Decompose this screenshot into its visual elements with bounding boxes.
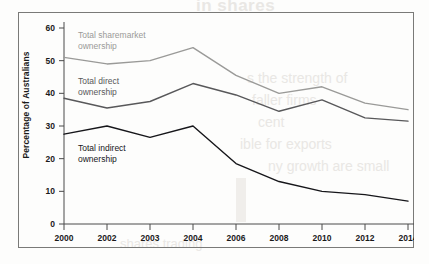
svg-text:2012: 2012 xyxy=(356,233,375,243)
line-chart-plot: 0102030405060 20002002200320042006200820… xyxy=(18,12,414,248)
svg-text:40: 40 xyxy=(46,88,56,98)
svg-text:2000: 2000 xyxy=(55,233,74,243)
series-label-line1: Total direct xyxy=(78,76,120,86)
svg-text:20: 20 xyxy=(46,154,56,164)
series-label-line2: ownership xyxy=(78,41,117,51)
series-label-line2: ownership xyxy=(78,154,117,164)
series-label-line1: Total sharemarket xyxy=(78,30,146,40)
svg-text:2002: 2002 xyxy=(98,233,117,243)
svg-text:2010: 2010 xyxy=(313,233,332,243)
svg-text:2014: 2014 xyxy=(399,233,414,243)
series-label-line2: ownership xyxy=(78,87,117,97)
svg-text:30: 30 xyxy=(46,121,56,131)
figure-container: in shares s the strength of faller firms… xyxy=(0,0,429,264)
svg-text:50: 50 xyxy=(46,56,56,66)
svg-text:2004: 2004 xyxy=(184,233,203,243)
svg-text:10: 10 xyxy=(46,186,56,196)
svg-text:2006: 2006 xyxy=(227,233,246,243)
svg-text:60: 60 xyxy=(46,23,56,33)
x-axis: 200020022003200420062008201020122014 xyxy=(55,224,414,243)
series-label-line1: Total indirect xyxy=(78,143,126,153)
series-lines xyxy=(64,48,408,202)
svg-text:2008: 2008 xyxy=(270,233,289,243)
series-annotations: Total sharemarketownershipTotal directow… xyxy=(78,30,146,164)
svg-text:2003: 2003 xyxy=(141,233,160,243)
y-axis: 0102030405060 xyxy=(46,22,64,229)
svg-text:0: 0 xyxy=(50,219,55,229)
